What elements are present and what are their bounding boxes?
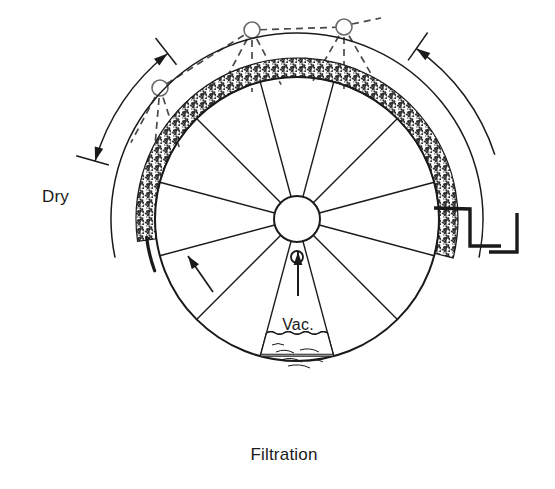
spray-nozzle-center [244,22,260,38]
dry-zone-label: Dry [42,187,69,206]
drum-hub [274,196,320,242]
rotary-vacuum-drum-filter-figure: Dry Vac. Filtration [0,0,555,489]
vacuum-label: Vac. [282,316,314,333]
filtration-zone-label: Filtration [250,445,317,464]
slurry-body [260,332,334,356]
spray-nozzle-right [336,19,352,35]
diagram-root: Dry Vac. Filtration [0,0,555,489]
